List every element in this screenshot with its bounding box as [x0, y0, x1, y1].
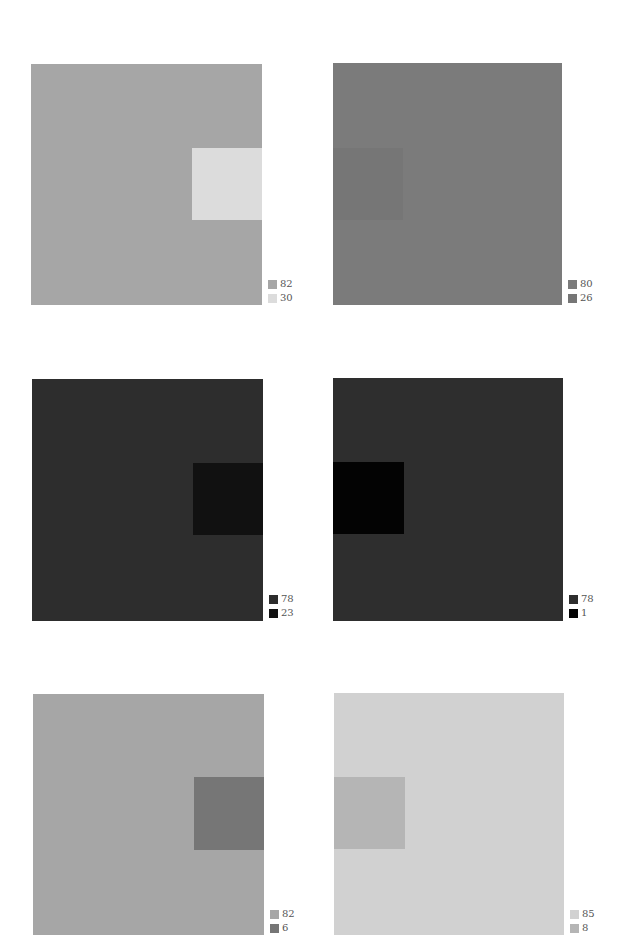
swatch-icon	[268, 280, 277, 289]
legend-item: 26	[568, 291, 593, 305]
legend-bottom-left: 826	[270, 907, 295, 935]
swatch-icon	[270, 910, 279, 919]
legend-item: 80	[568, 277, 593, 291]
legend-label: 23	[281, 606, 294, 620]
legend-item: 23	[269, 606, 294, 620]
legend-label: 85	[582, 907, 595, 921]
swatch-icon	[570, 924, 579, 933]
legend-label: 8	[582, 921, 588, 935]
swatch-icon	[269, 595, 278, 604]
legend-item: 85	[570, 907, 595, 921]
legend-item: 30	[268, 291, 293, 305]
legend-label: 78	[581, 592, 594, 606]
swatch-icon	[270, 924, 279, 933]
legend-bottom-right: 858	[570, 907, 595, 935]
swatch-icon	[268, 294, 277, 303]
inner-square-top-left	[192, 148, 262, 220]
inner-square-middle-left	[193, 463, 263, 535]
legend-label: 30	[280, 291, 293, 305]
legend-label: 82	[282, 907, 295, 921]
swatch-icon	[570, 910, 579, 919]
legend-item: 8	[570, 921, 595, 935]
inner-square-bottom-left	[194, 777, 264, 850]
legend-middle-right: 781	[569, 592, 594, 620]
swatch-icon	[568, 294, 577, 303]
legend-item: 82	[268, 277, 293, 291]
legend-label: 1	[581, 606, 587, 620]
legend-label: 82	[280, 277, 293, 291]
legend-top-left: 8230	[268, 277, 293, 305]
legend-item: 78	[269, 592, 294, 606]
inner-square-top-right	[333, 148, 403, 220]
legend-label: 26	[580, 291, 593, 305]
inner-square-middle-right	[333, 462, 404, 534]
swatch-icon	[569, 595, 578, 604]
swatch-icon	[568, 280, 577, 289]
legend-label: 80	[580, 277, 593, 291]
inner-square-bottom-right	[334, 777, 405, 849]
legend-item: 1	[569, 606, 594, 620]
swatch-icon	[569, 609, 578, 618]
legend-middle-left: 7823	[269, 592, 294, 620]
legend-item: 6	[270, 921, 295, 935]
legend-label: 78	[281, 592, 294, 606]
legend-top-right: 8026	[568, 277, 593, 305]
legend-item: 78	[569, 592, 594, 606]
swatch-icon	[269, 609, 278, 618]
legend-item: 82	[270, 907, 295, 921]
legend-label: 6	[282, 921, 288, 935]
